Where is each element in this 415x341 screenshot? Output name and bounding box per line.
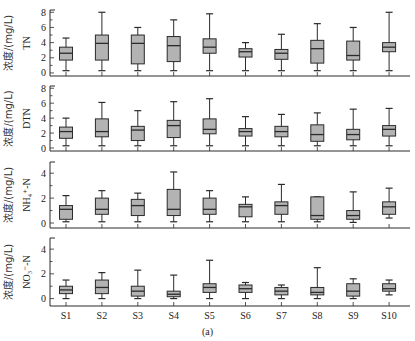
box-s3 [131,270,144,298]
box-s10 [383,188,396,218]
x-tick-label: S2 [97,310,108,321]
box-s5 [203,14,216,71]
x-tick-label: S10 [381,310,397,321]
y-tick-label: 2 [41,193,46,204]
box-s2 [95,12,108,70]
box-s2 [95,102,108,145]
y-tick-label: 0 [41,67,46,78]
y-tick-label: 6 [41,98,46,109]
box-s6 [239,43,252,71]
parameter-label: NH₄⁺-N [21,178,32,211]
y-axis-label: 浓度/(mg/L) [2,15,14,71]
y-tick-label: 8 [41,7,46,18]
x-tick-label: S1 [61,310,72,321]
x-tick-label: S6 [240,310,251,321]
box-s5 [203,191,216,222]
box-s6 [239,197,252,222]
box-s1 [60,118,73,146]
box-s9 [347,279,360,299]
box-s2 [95,273,108,299]
y-tick-label: 0 [41,293,46,304]
box-s4 [167,172,180,222]
y-tick-label: 8 [41,83,46,94]
y-tick-label: 0 [41,218,46,229]
box-s1 [60,280,73,299]
box-s1 [60,196,73,222]
y-tick-label: 6 [41,22,46,33]
box-s8 [311,268,324,299]
y-tick-label: 2 [41,128,46,139]
x-tick-label: S3 [133,310,144,321]
box-s9 [347,27,360,70]
box-s2 [95,191,108,222]
box-s4 [167,102,180,146]
box-s3 [131,111,144,146]
box-s8 [311,113,324,146]
y-tick-label: 4 [41,244,46,255]
box-s4 [167,275,180,298]
x-tick-label: S5 [204,310,215,321]
x-tick-label: S8 [312,310,323,321]
panel-tn: 02468浓度/(mg/L)TN [2,7,410,79]
box-s5 [203,99,216,146]
y-axis-label: 浓度/(mg/L) [2,167,14,223]
parameter-label: NO₃⁻-N [21,255,32,288]
box-s7 [275,114,288,145]
y-tick-label: 2 [41,268,46,279]
box-s10 [383,280,396,295]
box-s9 [347,109,360,146]
x-tick-label: S9 [348,310,359,321]
box-s8 [311,24,324,71]
y-tick-label: 4 [41,113,46,124]
parameter-label: DTN [21,108,32,129]
panel-no-n: 024浓度/(mg/L)NO₃⁻-NS1S2S3S4S5S6S7S8S9S10 [2,238,410,321]
box-s8 [311,197,324,222]
box-s9 [347,192,360,223]
y-tick-label: 0 [41,143,46,154]
panel-nh-n: 024浓度/(mg/L)NH₄⁺-N [2,162,410,229]
box-s10 [383,108,396,145]
y-tick-label: 4 [41,37,46,48]
x-tick-label: S7 [276,310,287,321]
y-tick-label: 4 [41,168,46,179]
box-s3 [131,27,144,70]
box-s7 [275,34,288,70]
box-s1 [60,38,73,71]
box-s6 [239,117,252,146]
box-s4 [167,20,180,71]
box-s7 [275,285,288,299]
x-tick-label: S4 [168,310,179,321]
box-plot-figure: 02468浓度/(mg/L)TN02468浓度/(mg/L)DTN024浓度/(… [0,0,415,341]
box-s3 [131,193,144,222]
y-tick-label: 2 [41,52,46,63]
panel-dtn: 02468浓度/(mg/L)DTN [2,83,410,154]
y-axis-label: 浓度/(mg/L) [2,244,14,300]
y-axis-label: 浓度/(mg/L) [2,90,14,146]
box-s10 [383,12,396,70]
box-s7 [275,184,288,221]
box-s5 [203,260,216,298]
box-s6 [239,283,252,299]
parameter-label: TN [21,36,32,49]
figure-caption: (a) [0,326,415,337]
